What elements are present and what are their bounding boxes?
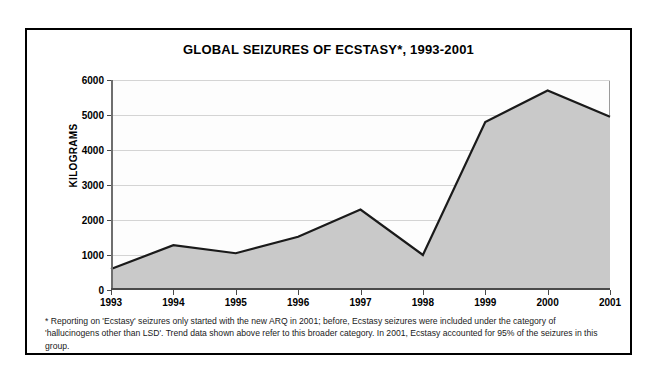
- y-tick-label: 3000: [82, 180, 104, 191]
- x-tick-label: 1997: [349, 297, 371, 308]
- y-axis-line: [111, 80, 113, 290]
- y-tick-mark: [107, 115, 111, 116]
- footnote-text: * Reporting on 'Ecstasy' seizures only s…: [45, 315, 611, 352]
- y-tick-mark: [107, 185, 111, 186]
- y-tick-label: 2000: [82, 215, 104, 226]
- y-tick-label: 5000: [82, 110, 104, 121]
- x-tick-mark: [111, 290, 112, 295]
- x-tick-label: 1994: [162, 297, 184, 308]
- y-axis-title: KILOGRAMS: [68, 96, 79, 216]
- x-tick-mark: [610, 290, 611, 295]
- plot-area-wrapper: 0100020003000400050006000 19931994199519…: [111, 80, 610, 290]
- x-tick-label: 1999: [474, 297, 496, 308]
- y-tick-mark: [107, 220, 111, 221]
- area-series: [111, 80, 610, 290]
- y-tick-label: 4000: [82, 145, 104, 156]
- x-tick-mark: [423, 290, 424, 295]
- x-tick-mark: [298, 290, 299, 295]
- x-tick-label: 2001: [599, 297, 621, 308]
- x-tick-mark: [173, 290, 174, 295]
- chart-title: GLOBAL SEIZURES OF ECSTASY*, 1993-2001: [27, 42, 630, 57]
- chart-frame: GLOBAL SEIZURES OF ECSTASY*, 1993-2001 K…: [25, 28, 632, 355]
- x-tick-mark: [485, 290, 486, 295]
- x-tick-mark: [548, 290, 549, 295]
- series-fill: [111, 91, 610, 291]
- x-tick-mark: [361, 290, 362, 295]
- y-tick-label: 6000: [82, 75, 104, 86]
- chart-page: GLOBAL SEIZURES OF ECSTASY*, 1993-2001 K…: [0, 0, 653, 384]
- y-tick-mark: [107, 255, 111, 256]
- y-tick-label: 1000: [82, 250, 104, 261]
- x-tick-label: 1995: [225, 297, 247, 308]
- y-tick-mark: [107, 80, 111, 81]
- x-tick-label: 1996: [287, 297, 309, 308]
- y-tick-label: 0: [98, 285, 104, 296]
- x-tick-label: 1993: [100, 297, 122, 308]
- y-tick-mark: [107, 150, 111, 151]
- x-tick-label: 1998: [412, 297, 434, 308]
- x-tick-mark: [236, 290, 237, 295]
- x-tick-label: 2000: [537, 297, 559, 308]
